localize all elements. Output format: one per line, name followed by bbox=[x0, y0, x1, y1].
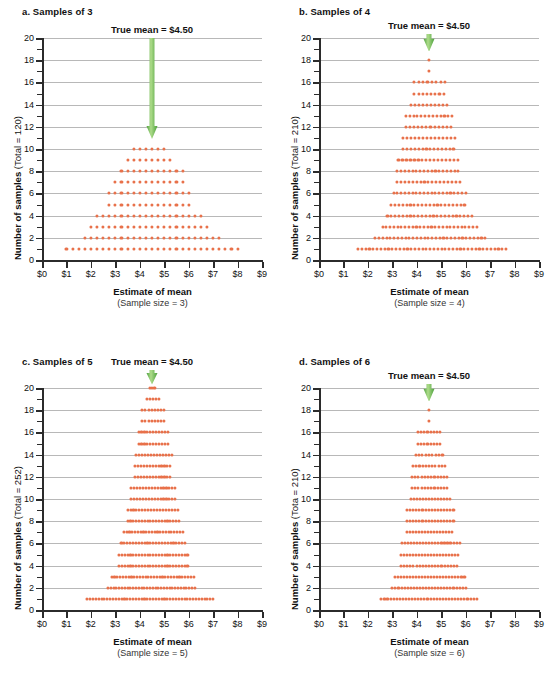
data-point bbox=[419, 192, 422, 195]
data-point bbox=[138, 203, 141, 206]
data-point bbox=[157, 192, 160, 195]
data-point bbox=[475, 597, 478, 600]
x-axis-subtitle-d: (Sample size = 6) bbox=[319, 648, 540, 658]
data-point bbox=[187, 225, 190, 228]
data-point bbox=[396, 192, 399, 195]
data-point bbox=[432, 247, 435, 250]
data-point bbox=[441, 159, 444, 162]
x-tick bbox=[368, 612, 370, 618]
data-point bbox=[411, 170, 414, 173]
data-point bbox=[426, 225, 429, 228]
data-point bbox=[441, 225, 444, 228]
data-point bbox=[446, 486, 449, 489]
x-tick bbox=[441, 262, 443, 268]
y-tick-label: 6 bbox=[29, 538, 34, 548]
data-point bbox=[429, 159, 432, 162]
data-point bbox=[175, 214, 178, 217]
data-point bbox=[406, 136, 409, 139]
data-point bbox=[429, 147, 432, 150]
data-point bbox=[193, 214, 196, 217]
data-point bbox=[114, 236, 117, 239]
x-tick-label: $2 bbox=[86, 619, 96, 629]
data-point bbox=[437, 125, 440, 128]
data-point bbox=[414, 136, 417, 139]
y-tick-label: 14 bbox=[301, 100, 311, 110]
data-point bbox=[441, 453, 444, 456]
data-point bbox=[120, 203, 123, 206]
data-point bbox=[175, 181, 178, 184]
data-point bbox=[150, 247, 153, 250]
data-point bbox=[497, 247, 500, 250]
data-point bbox=[419, 225, 422, 228]
y-tick-label: 6 bbox=[29, 188, 34, 198]
data-point bbox=[453, 192, 456, 195]
data-point bbox=[393, 236, 396, 239]
x-tick-label: $3 bbox=[110, 269, 120, 279]
data-point bbox=[413, 92, 416, 95]
data-point bbox=[114, 214, 117, 217]
data-point bbox=[417, 147, 420, 150]
data-point bbox=[415, 225, 418, 228]
data-point bbox=[449, 159, 452, 162]
x-axis-title-a: Estimate of mean bbox=[42, 286, 263, 297]
data-point bbox=[132, 159, 135, 162]
data-point bbox=[434, 225, 437, 228]
x-tick-label: $1 bbox=[338, 619, 348, 629]
x-tick-label: $8 bbox=[233, 269, 243, 279]
data-point bbox=[504, 247, 507, 250]
y-tick-label: 4 bbox=[306, 561, 311, 571]
x-tick bbox=[42, 612, 44, 618]
data-point bbox=[381, 225, 384, 228]
data-point bbox=[169, 225, 172, 228]
data-point bbox=[459, 203, 462, 206]
data-point bbox=[489, 247, 492, 250]
data-point bbox=[126, 203, 129, 206]
data-point bbox=[432, 203, 435, 206]
data-point bbox=[163, 247, 166, 250]
data-point bbox=[472, 236, 475, 239]
data-point bbox=[457, 553, 460, 556]
data-point bbox=[436, 203, 439, 206]
data-point bbox=[396, 170, 399, 173]
data-point bbox=[144, 181, 147, 184]
data-point bbox=[430, 170, 433, 173]
x-axis-line-c bbox=[42, 610, 263, 612]
data-point bbox=[163, 409, 166, 412]
data-point bbox=[413, 214, 416, 217]
data-point bbox=[435, 114, 438, 117]
data-point bbox=[95, 225, 98, 228]
data-point bbox=[181, 214, 184, 217]
data-point bbox=[429, 247, 432, 250]
data-point bbox=[457, 192, 460, 195]
data-point bbox=[433, 136, 436, 139]
data-point bbox=[390, 214, 393, 217]
data-point bbox=[459, 214, 462, 217]
y-tick-label: 4 bbox=[29, 561, 34, 571]
data-point bbox=[372, 247, 375, 250]
true-mean-annotation-d: True mean = $4.50 bbox=[388, 370, 470, 381]
data-point bbox=[447, 114, 450, 117]
data-point bbox=[438, 92, 441, 95]
data-point bbox=[181, 181, 184, 184]
data-point bbox=[236, 247, 239, 250]
data-point bbox=[212, 597, 215, 600]
data-point bbox=[427, 59, 430, 62]
y-tick-label: 6 bbox=[306, 538, 311, 548]
data-point bbox=[424, 114, 427, 117]
x-tick-label: $4 bbox=[135, 269, 145, 279]
panel-title-b: b. Samples of 4 bbox=[299, 6, 370, 17]
y-axis-title-d: Number of samples (Tota = 210) bbox=[289, 468, 300, 610]
data-point bbox=[183, 542, 186, 545]
data-point bbox=[181, 192, 184, 195]
data-point bbox=[453, 136, 456, 139]
data-point bbox=[425, 136, 428, 139]
data-point bbox=[428, 214, 431, 217]
panel-title-a: a. Samples of 3 bbox=[22, 6, 93, 17]
data-point bbox=[435, 81, 438, 84]
plot-area-c: 02468101214161820$0$1$2$3$4$5$6$7$8$9 bbox=[42, 388, 262, 610]
y-tick-label: 10 bbox=[24, 144, 34, 154]
y-axis-line-a bbox=[42, 38, 44, 261]
data-point bbox=[438, 431, 441, 434]
data-point bbox=[411, 181, 414, 184]
data-point bbox=[77, 247, 80, 250]
